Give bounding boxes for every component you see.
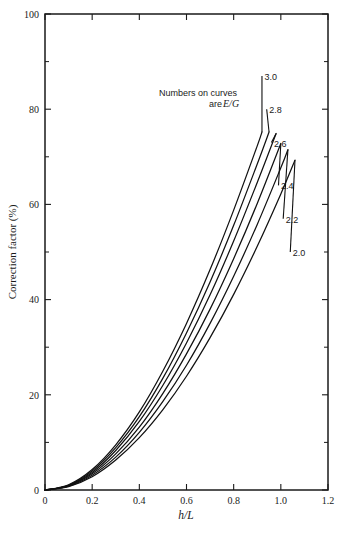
y-tick-label: 0 <box>34 485 39 496</box>
correction-factor-chart: 00.20.40.60.81.01.2 020406080100 3.02.82… <box>0 0 351 538</box>
curve-2-2 <box>45 150 288 490</box>
curve-end-labels: 3.02.82.62.42.22.0 <box>264 72 305 258</box>
curve-label-2-6: 2.6 <box>274 139 287 149</box>
curve-label-3-0: 3.0 <box>264 72 277 82</box>
y-axis-tick-labels: 020406080100 <box>24 9 39 496</box>
x-axis-tick-labels: 00.20.40.60.81.01.2 <box>43 495 335 506</box>
annotation-line-1: Numbers on curves <box>159 88 238 98</box>
x-tick-label: 0.2 <box>86 495 99 506</box>
y-tick-label: 40 <box>29 294 39 305</box>
curve-2-8 <box>45 132 269 490</box>
x-tick-label: 0.6 <box>180 495 193 506</box>
annotation-line-2-italic: E/G <box>222 98 239 109</box>
x-axis-ticks-top <box>45 14 328 20</box>
curve-2-6 <box>45 133 276 490</box>
annotation-line-2-prefix: are <box>209 99 222 109</box>
y-tick-label: 60 <box>29 199 39 210</box>
x-tick-label: 0.4 <box>133 495 146 506</box>
y-tick-label: 100 <box>24 9 39 20</box>
plot-frame <box>45 14 328 490</box>
x-axis-ticks-bottom <box>45 484 328 490</box>
figure-container: 00.20.40.60.81.01.2 020406080100 3.02.82… <box>0 0 351 538</box>
curve-2-0 <box>45 160 295 490</box>
x-tick-label: 0.8 <box>227 495 240 506</box>
x-tick-label: 1.0 <box>275 495 288 506</box>
curve-group <box>45 132 295 490</box>
curve-label-2-8: 2.8 <box>269 105 282 115</box>
curve-label-2-2: 2.2 <box>286 215 299 225</box>
y-tick-label: 20 <box>29 390 39 401</box>
x-tick-label: 1.2 <box>322 495 335 506</box>
curve-label-2-0: 2.0 <box>293 248 306 258</box>
y-axis-title: Correction factor (%) <box>6 204 19 299</box>
x-tick-label: 0 <box>43 495 48 506</box>
y-tick-label: 80 <box>29 104 39 115</box>
curve-label-2-4: 2.4 <box>281 181 294 191</box>
curve-3-0 <box>45 132 262 490</box>
x-axis-title: h/L <box>178 509 193 521</box>
curve-leader-2-0 <box>290 160 295 252</box>
